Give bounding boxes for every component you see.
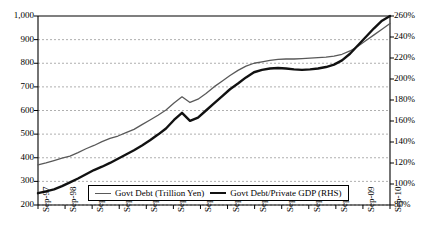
left-axis-tick-label: 500 xyxy=(0,129,34,138)
right-axis-tick-label: 140% xyxy=(394,137,415,146)
x-axis-tick-label: Sep-10 xyxy=(394,187,403,213)
series-line-govt-debt xyxy=(38,24,390,165)
series-line-govt-debt-private-gdp xyxy=(38,16,390,193)
legend-item-govt-debt: Govt Debt (Trillion Yen) xyxy=(95,188,204,198)
right-axis-tick-label: 220% xyxy=(394,53,415,62)
legend-line-thick-icon xyxy=(210,192,226,194)
legend-label-govt-debt: Govt Debt (Trillion Yen) xyxy=(115,188,204,198)
left-axis-tick-label: 800 xyxy=(0,58,34,67)
chart-container: 2003004005006007008009001,000 80%100%120… xyxy=(0,0,435,252)
left-axis-tick-label: 1,000 xyxy=(0,11,34,20)
left-axis-tick-label: 300 xyxy=(0,176,34,185)
x-axis-tick-label: Sep-09 xyxy=(367,187,376,213)
chart-plot-svg xyxy=(0,0,435,252)
right-axis-tick-label: 260% xyxy=(394,11,415,20)
right-axis-tick-label: 160% xyxy=(394,116,415,125)
right-axis-tick-label: 120% xyxy=(394,158,415,167)
legend-line-thin-icon xyxy=(95,193,111,194)
x-axis-tick-label: Sep-98 xyxy=(69,187,78,213)
chart-legend: Govt Debt (Trillion Yen) Govt Debt/Priva… xyxy=(88,185,349,201)
right-axis-tick-label: 200% xyxy=(394,74,415,83)
right-axis-tick-label: 240% xyxy=(394,32,415,41)
left-axis-tick-label: 200 xyxy=(0,200,34,209)
right-axis-tick-label: 180% xyxy=(394,95,415,104)
legend-label-govt-debt-private-gdp: Govt Debt/Private GDP (RHS) xyxy=(230,188,341,198)
legend-item-govt-debt-private-gdp: Govt Debt/Private GDP (RHS) xyxy=(210,188,341,198)
left-axis-tick-label: 600 xyxy=(0,106,34,115)
left-axis-tick-label: 900 xyxy=(0,35,34,44)
left-axis-tick-label: 400 xyxy=(0,153,34,162)
left-axis-tick-label: 700 xyxy=(0,82,34,91)
x-axis-tick-label: Sep-97 xyxy=(42,187,51,213)
